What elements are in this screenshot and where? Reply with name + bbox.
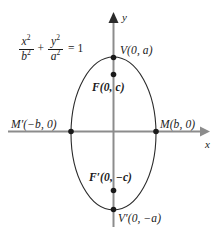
point-vertex-bottom xyxy=(111,207,117,213)
equation-plus-operator: + xyxy=(38,43,45,55)
equation-numerator-x: x2 xyxy=(20,36,33,49)
label-focus-top: F(0, c) xyxy=(92,82,125,94)
ellipse-equation: x2 b2 + y2 a2 = 1 xyxy=(17,36,83,62)
equation-equals-sign: = xyxy=(68,43,75,55)
equation-fraction-y: y2 a2 xyxy=(48,36,63,62)
label-vertex-top: V(0, a) xyxy=(120,45,153,57)
ellipse-diagram: x2 b2 + y2 a2 = 1 V(0, a) F(0, c) M′(−b,… xyxy=(0,0,219,242)
equation-denominator-a: a2 xyxy=(49,50,63,63)
x-axis-arrowhead xyxy=(200,127,210,137)
y-axis-label: y xyxy=(122,12,127,23)
point-focus-top xyxy=(111,72,117,78)
equation-denominator-b: b2 xyxy=(19,50,33,63)
label-vertex-bottom: V′(0, −a) xyxy=(118,213,161,225)
point-minor-vertex-left xyxy=(68,129,74,135)
label-minor-vertex-left: M′(−b, 0) xyxy=(11,119,57,131)
x-axis-label: x xyxy=(205,139,210,150)
label-focus-bottom: F′(0, −c) xyxy=(89,172,132,184)
equation-numerator-y: y2 xyxy=(49,36,62,49)
equation-right-side: 1 xyxy=(78,43,84,55)
equation-fraction-x: x2 b2 xyxy=(19,36,34,62)
point-focus-bottom xyxy=(111,188,117,194)
point-vertex-top xyxy=(111,55,117,61)
label-minor-vertex-right: M(b, 0) xyxy=(160,119,195,131)
y-axis-arrowhead xyxy=(109,12,119,23)
point-minor-vertex-right xyxy=(153,129,159,135)
